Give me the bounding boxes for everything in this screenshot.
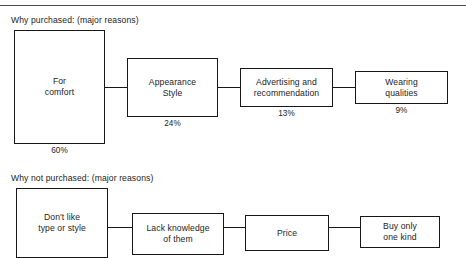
connector-dontlike-to-lackknowledge [107, 227, 133, 228]
percent-label-appearance-style: 24% [127, 119, 218, 128]
flow-box-for-comfort: For comfort [14, 30, 105, 144]
flow-box-appearance-style: Appearance Style [127, 58, 218, 117]
section-heading-why-purchased: Why purchased: (major reasons) [11, 15, 139, 25]
clipped-header-text [0, 0, 466, 4]
connector-lackknowledge-to-price [223, 227, 247, 228]
connector-appearance-to-advertising [217, 87, 241, 88]
flow-box-wearing-qualities: Wearing qualities [355, 71, 448, 104]
header-divider-rule [0, 5, 466, 6]
flow-box-lack-knowledge-of-them: Lack knowledge of them [132, 213, 224, 255]
percent-label-for-comfort: 60% [14, 146, 105, 155]
flow-box-dont-like-type-or-style: Don't like type or style [16, 188, 108, 258]
section-heading-why-not-purchased: Why not purchased: (major reasons) [11, 173, 153, 183]
percent-label-advertising-recommendation: 13% [240, 109, 333, 118]
percent-label-wearing-qualities: 9% [355, 106, 448, 115]
connector-price-to-buyonly [328, 227, 361, 228]
flow-box-price: Price [245, 215, 329, 251]
connector-comfort-to-appearance [104, 87, 128, 88]
flow-box-advertising-recommendation: Advertising and recommendation [240, 68, 333, 107]
connector-advertising-to-wearing [332, 87, 356, 88]
